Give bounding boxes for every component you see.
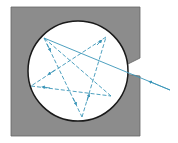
circular-cavity: [28, 21, 128, 121]
diagram-canvas: [0, 0, 178, 143]
